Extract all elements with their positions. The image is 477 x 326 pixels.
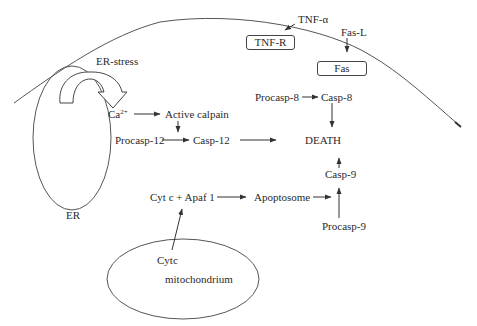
label-er: ER — [66, 210, 80, 221]
apoptosis-diagram — [0, 0, 477, 326]
label-fas-l: Fas-L — [341, 27, 367, 38]
label-casp-8: Casp-8 — [321, 92, 352, 103]
label-procasp-12: Procasp-12 — [115, 135, 165, 146]
label-ca-charge: 2+ — [120, 108, 127, 116]
membrane-end-mark — [455, 122, 461, 127]
label-procasp-8: Procasp-8 — [255, 92, 299, 103]
label-apoptosome: Apoptosome — [254, 192, 310, 203]
label-ca-text: Ca — [108, 108, 120, 120]
label-active-calpain: Active calpain — [165, 109, 229, 120]
label-casp-9: Casp-9 — [325, 169, 356, 180]
er-stress-arrow-icon — [60, 72, 127, 108]
box-fas: Fas — [317, 61, 367, 76]
label-tnf-alpha: TNF-α — [298, 14, 328, 25]
label-mitochondrium: mitochondrium — [165, 274, 233, 285]
box-tnf-r: TNF-R — [246, 35, 295, 50]
label-casp-12: Casp-12 — [193, 135, 230, 146]
label-ca: Ca2+ — [108, 109, 128, 120]
label-cytc: Cytc — [157, 255, 178, 266]
label-death: DEATH — [305, 135, 341, 146]
label-er-stress: ER-stress — [96, 56, 138, 67]
label-cytc-apaf1: Cyt c + Apaf 1 — [150, 192, 215, 203]
label-procasp-9: Procasp-9 — [322, 221, 366, 232]
